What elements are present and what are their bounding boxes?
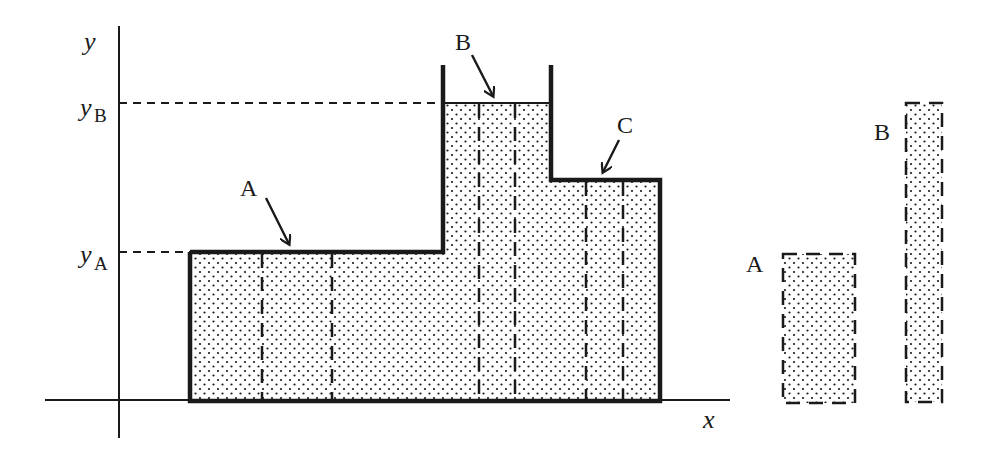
x-axis-label: x — [702, 405, 715, 434]
point-C-annotation: C — [603, 112, 633, 172]
svg-text:y: y — [77, 240, 92, 269]
y-axis-label: y — [81, 27, 96, 56]
point-C-label: C — [617, 112, 633, 138]
isolated-column-B: B — [874, 103, 942, 402]
point-A-label: A — [240, 175, 258, 201]
arrow-B-icon — [472, 55, 493, 96]
arrow-C-icon — [603, 140, 619, 172]
yB-label: y B — [77, 93, 107, 126]
isolated-column-A: A — [746, 251, 855, 403]
isolated-column-B-label: B — [874, 119, 890, 145]
point-B-label: B — [455, 29, 471, 55]
isolated-column-A-label: A — [746, 251, 764, 277]
yA-label: y A — [77, 240, 108, 274]
svg-text:B: B — [94, 105, 107, 126]
svg-text:y: y — [77, 93, 92, 122]
point-A-annotation: A — [240, 175, 289, 244]
fluid-container-diagram: x y y B y A A B C A — [0, 0, 986, 451]
arrow-A-icon — [266, 198, 289, 244]
svg-text:A: A — [94, 253, 108, 274]
point-B-annotation: B — [455, 29, 493, 96]
